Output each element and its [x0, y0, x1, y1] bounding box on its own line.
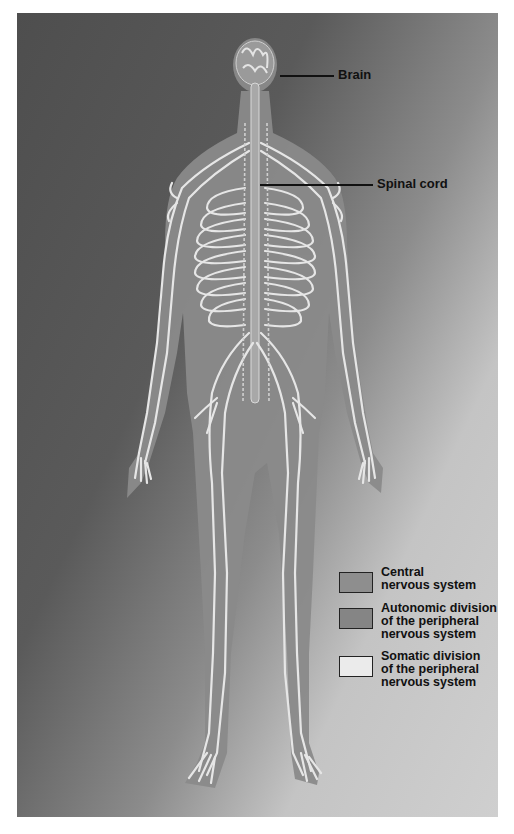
legend-item-autonomic: Autonomic division of the peripheral ner…: [339, 602, 498, 641]
legend-central-line2: nervous system: [381, 579, 476, 592]
brain-shape: [236, 41, 274, 85]
swatch-somatic: [339, 656, 373, 677]
spinal-cord-shape: [251, 83, 259, 403]
brain-leader-line: [280, 75, 334, 77]
legend: Central nervous system Autonomic divisio…: [339, 566, 498, 698]
spinal-cord-leader-line: [260, 184, 373, 186]
legend-item-somatic: Somatic division of the peripheral nervo…: [339, 650, 498, 689]
legend-somatic-line3: nervous system: [381, 676, 480, 689]
swatch-autonomic: [339, 608, 373, 629]
spinal-cord-label: Spinal cord: [377, 176, 448, 191]
legend-autonomic-line3: nervous system: [381, 628, 497, 641]
swatch-central: [339, 572, 373, 593]
legend-item-central: Central nervous system: [339, 566, 498, 593]
brain-label: Brain: [338, 67, 371, 82]
figure-panel: Brain Spinal cord Central nervous system…: [17, 13, 498, 817]
